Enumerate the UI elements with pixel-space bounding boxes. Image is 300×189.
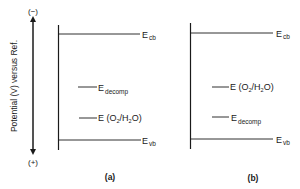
- panel-a-evb-label: Evb: [142, 136, 156, 147]
- potential-axis: (−) (+) Potential (V) versus Ref.: [9, 7, 38, 167]
- axis-bottom-sign: (+): [28, 158, 38, 167]
- panel-a-edecomp-label: Edecomp: [98, 83, 129, 96]
- panel-a-ecb-label: Ecb: [142, 30, 156, 41]
- panel-b-caption: (b): [248, 173, 259, 183]
- panel-b-evb-label: Evb: [276, 135, 290, 146]
- panel-b-eo2h2o-label: E (O2/H2O): [230, 82, 274, 93]
- panel-b-edecomp-label: Edecomp: [231, 113, 262, 126]
- panel-a-eo2h2o-label: E (O2/H2O): [98, 113, 142, 124]
- panel-b: Ecb E (O2/H2O) Edecomp Evb (b): [190, 23, 290, 183]
- axis-label: Potential (V) versus Ref.: [9, 40, 19, 132]
- panel-b-ecb-label: Ecb: [276, 29, 290, 40]
- band-diagram: (−) (+) Potential (V) versus Ref. Ecb Ed…: [0, 0, 300, 189]
- axis-top-sign: (−): [28, 7, 38, 16]
- panel-a-caption: (a): [105, 172, 116, 182]
- panel-a: Ecb Edecomp E (O2/H2O) Evb (a): [58, 25, 156, 182]
- diagram-svg: (−) (+) Potential (V) versus Ref. Ecb Ed…: [0, 0, 300, 189]
